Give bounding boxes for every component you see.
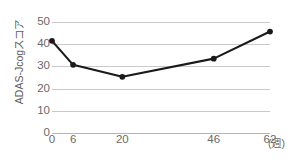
series-polyline [52, 32, 270, 77]
data-point-week-20 [119, 74, 125, 80]
y-tick-label-20: 20 [26, 83, 50, 95]
x-tick-label-20: 20 [116, 134, 129, 146]
data-point-week-46 [211, 56, 217, 62]
line-chart: ADAS-Jcogスコア 01020304050 06204662 (週) [0, 0, 299, 161]
data-point-week-0 [49, 38, 55, 44]
x-tick-label-46: 46 [207, 134, 220, 146]
y-tick-label-50: 50 [26, 16, 50, 28]
data-point-week-6 [70, 62, 76, 68]
data-point-week-62 [267, 29, 273, 35]
x-tick-label-6: 6 [70, 134, 76, 146]
x-axis-unit-label: (週) [268, 135, 285, 150]
y-tick-label-10: 10 [26, 105, 50, 117]
plot-area [52, 22, 270, 133]
x-tick-label-0: 0 [49, 134, 55, 146]
x-axis-tick-labels: 06204662 [0, 134, 299, 154]
y-axis-title: ADAS-Jcogスコア [11, 7, 27, 117]
y-tick-label-40: 40 [26, 38, 50, 50]
series-line-adas-jcog [52, 22, 270, 133]
y-tick-label-30: 30 [26, 60, 50, 72]
